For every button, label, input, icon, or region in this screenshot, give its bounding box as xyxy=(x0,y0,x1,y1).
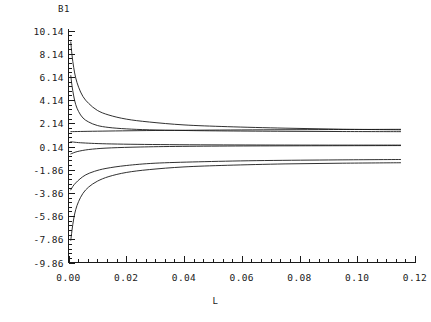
data-curve xyxy=(71,146,401,154)
chart-figure: B1 L 10.148.146.144.142.140.14-1.86-3.86… xyxy=(0,0,431,322)
data-curve xyxy=(71,163,401,241)
data-curve xyxy=(71,159,401,189)
plot-area xyxy=(0,0,431,322)
data-curve xyxy=(71,76,401,132)
data-curve xyxy=(71,42,401,130)
data-curve xyxy=(71,142,401,145)
data-curves xyxy=(71,42,401,240)
